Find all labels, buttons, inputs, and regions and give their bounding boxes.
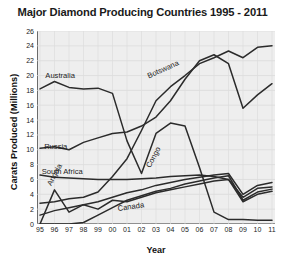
y-tick-label: 24 — [8, 42, 34, 49]
x-tick-label: 11 — [264, 226, 280, 234]
series-label-russia: Russia — [44, 142, 67, 151]
y-tick-label: 8 — [8, 161, 34, 168]
y-tick-label: 14 — [8, 117, 34, 124]
y-tick-label: 20 — [8, 72, 34, 79]
plot-area: BotswanaAustraliaRussiaSouth AfricaCongo… — [37, 31, 275, 224]
y-tick-label: 6 — [8, 176, 34, 183]
chart-root: Major Diamond Producing Countries 1995 -… — [0, 0, 285, 267]
series-label-australia: Australia — [45, 71, 75, 80]
chart-title: Major Diamond Producing Countries 1995 -… — [0, 6, 285, 18]
y-tick-label: 26 — [8, 28, 34, 35]
y-tick-label: 18 — [8, 87, 34, 94]
y-tick-label: 2 — [8, 206, 34, 213]
y-tick-label: 16 — [8, 102, 34, 109]
y-axis-ticks: 02468101214161820222426 — [6, 31, 34, 224]
y-tick-label: 4 — [8, 191, 34, 198]
y-tick-label: 22 — [8, 57, 34, 64]
series-lines — [37, 31, 275, 224]
x-axis-title: Year — [37, 245, 275, 255]
y-tick-label: 0 — [8, 221, 34, 228]
y-tick-label: 10 — [8, 146, 34, 153]
y-tick-label: 12 — [8, 131, 34, 138]
x-axis-ticks: 9596979899000102030405060708091011 — [37, 226, 275, 238]
